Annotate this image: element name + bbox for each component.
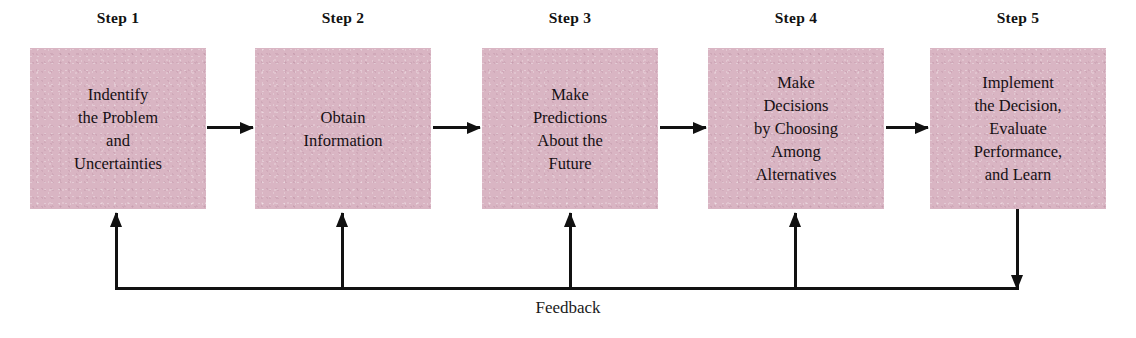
flow-arrow-step2-to-step3-icon xyxy=(433,126,480,129)
feedback-arrow-to-step2-icon xyxy=(341,213,344,288)
flow-arrow-step3-to-step4-icon xyxy=(660,126,706,129)
process-box-line: Obtain xyxy=(261,106,425,129)
step-label-3: Step 3 xyxy=(482,8,658,28)
process-box-line: and Learn xyxy=(936,163,1100,186)
process-box-step-4: Make Decisions by Choosing Among Alterna… xyxy=(708,48,884,209)
process-box-step-5: Implement the Decision, Evaluate Perform… xyxy=(930,48,1106,209)
flow-arrow-step1-to-step2-icon xyxy=(207,126,253,129)
process-box-line: Make xyxy=(714,71,878,94)
process-box-line: Make xyxy=(488,83,652,106)
process-box-line: Among xyxy=(714,140,878,163)
feedback-arrow-to-step4-icon xyxy=(794,213,797,288)
process-box-line: Alternatives xyxy=(714,163,878,186)
process-box-line: About the xyxy=(488,129,652,152)
process-box-line: Evaluate xyxy=(936,117,1100,140)
process-box-line: Indentify xyxy=(36,83,200,106)
feedback-arrow-to-step3-icon xyxy=(569,213,572,288)
feedback-arrow-to-step1-icon xyxy=(115,213,118,288)
process-box-step-1: Indentify the Problem and Uncertainties xyxy=(30,48,206,209)
process-box-line: Information xyxy=(261,129,425,152)
step-label-1: Step 1 xyxy=(30,8,206,28)
feedback-horizontal-line xyxy=(115,287,1019,290)
process-box-step-3: Make Predictions About the Future xyxy=(482,48,658,209)
process-box-text-1: Indentify the Problem and Uncertainties xyxy=(36,83,200,175)
decision-process-diagram: Step 1 Step 2 Step 3 Step 4 Step 5 Inden… xyxy=(0,0,1136,338)
process-box-text-5: Implement the Decision, Evaluate Perform… xyxy=(936,71,1100,186)
process-box-line: Uncertainties xyxy=(36,152,200,175)
feedback-label: Feedback xyxy=(468,298,668,318)
process-box-line: and xyxy=(36,129,200,152)
step-label-2: Step 2 xyxy=(255,8,431,28)
flow-arrow-step4-to-step5-icon xyxy=(886,126,928,129)
process-box-line: by Choosing xyxy=(714,117,878,140)
step-label-5: Step 5 xyxy=(930,8,1106,28)
process-box-text-2: Obtain Information xyxy=(261,106,425,152)
process-box-text-3: Make Predictions About the Future xyxy=(488,83,652,175)
process-box-line: Predictions xyxy=(488,106,652,129)
process-box-line: Decisions xyxy=(714,94,878,117)
process-box-line: the Decision, xyxy=(936,94,1100,117)
process-box-step-2: Obtain Information xyxy=(255,48,431,209)
process-box-line: the Problem xyxy=(36,106,200,129)
process-box-line: Future xyxy=(488,152,652,175)
process-box-line: Implement xyxy=(936,71,1100,94)
step-label-4: Step 4 xyxy=(708,8,884,28)
process-box-line: Performance, xyxy=(936,140,1100,163)
process-box-text-4: Make Decisions by Choosing Among Alterna… xyxy=(714,71,878,186)
feedback-arrow-from-step5-icon xyxy=(1016,209,1019,289)
